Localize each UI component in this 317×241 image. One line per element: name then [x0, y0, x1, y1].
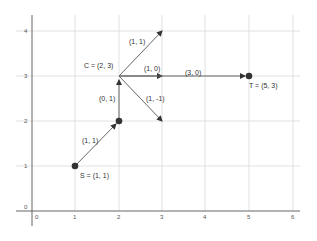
y-tick-4: 4 [24, 28, 27, 34]
x-tick-4: 4 [203, 214, 206, 220]
point-label-c: C = (2, 3) [84, 62, 113, 69]
point-label-s: S = (1, 1) [80, 172, 109, 179]
point-s [72, 163, 79, 170]
x-tick-3: 3 [160, 214, 163, 220]
y-tick-1: 1 [24, 163, 27, 169]
vector-label-p-to-c: (0, 1) [99, 95, 115, 102]
x-tick-1: 1 [73, 214, 76, 220]
vector-label-c-up-right: (1, 1) [129, 38, 145, 45]
plot-canvas [0, 0, 317, 241]
vector-label-s-to-p: (1, 1) [82, 137, 98, 144]
vector-label-c-down-right: (1, -1) [146, 95, 165, 102]
vector-label-c-to-t: (3, 0) [185, 69, 201, 76]
point-label-t: T = (5, 3) [249, 82, 277, 89]
point-p [116, 118, 123, 125]
vector-diagram: 0 1 2 3 4 5 6 0 1 2 3 4 S = (1, 1) C = (… [0, 0, 317, 241]
x-tick-6: 6 [291, 214, 294, 220]
point-t [246, 73, 253, 80]
grid-lines [16, 15, 300, 211]
vector-s-to-p [75, 124, 116, 166]
y-tick-0: 0 [24, 204, 27, 210]
x-tick-0: 0 [35, 214, 38, 220]
axes [16, 15, 300, 226]
y-tick-2: 2 [24, 118, 27, 124]
x-tick-2: 2 [117, 214, 120, 220]
y-tick-3: 3 [24, 73, 27, 79]
x-tick-5: 5 [247, 214, 250, 220]
vector-label-c-right: (1, 0) [144, 65, 160, 72]
